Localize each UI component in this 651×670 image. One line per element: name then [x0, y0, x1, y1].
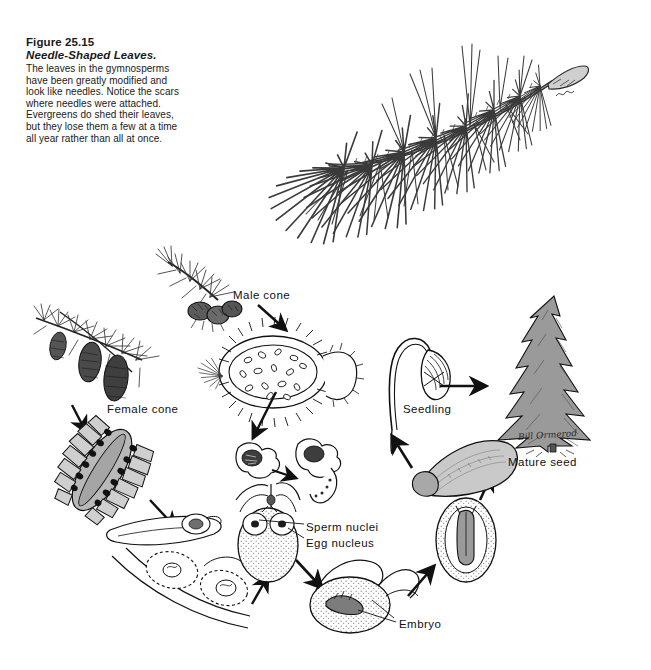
label-male-cone: Male cone: [233, 289, 290, 302]
male-cone-branch: [156, 246, 242, 332]
mature-winged-seed: [412, 441, 517, 497]
seedling: [390, 338, 451, 454]
female-cone-branch: [34, 304, 159, 402]
ovuliferous-scale: [107, 514, 221, 545]
seed-with-embryo: [436, 498, 496, 582]
label-female-cone: Female cone: [107, 403, 178, 416]
label-sperm-nuclei: Sperm nuclei: [306, 521, 379, 534]
ovule-with-archegonia: [236, 483, 304, 582]
label-mature-seed: Mature seed: [508, 456, 577, 469]
figure-page: Figure 25.15 Needle-Shaped Leaves. The l…: [0, 0, 651, 670]
life-cycle-illustration: [0, 0, 651, 670]
ovule-detail-group: [112, 547, 252, 628]
label-seedling: Seedling: [403, 403, 451, 416]
female-cone-section: [40, 408, 163, 534]
label-egg-nucleus: Egg nucleus: [306, 537, 374, 550]
label-embryo: Embryo: [399, 618, 441, 631]
pollen-grains: [236, 439, 341, 503]
male-cone-section: [198, 317, 364, 427]
